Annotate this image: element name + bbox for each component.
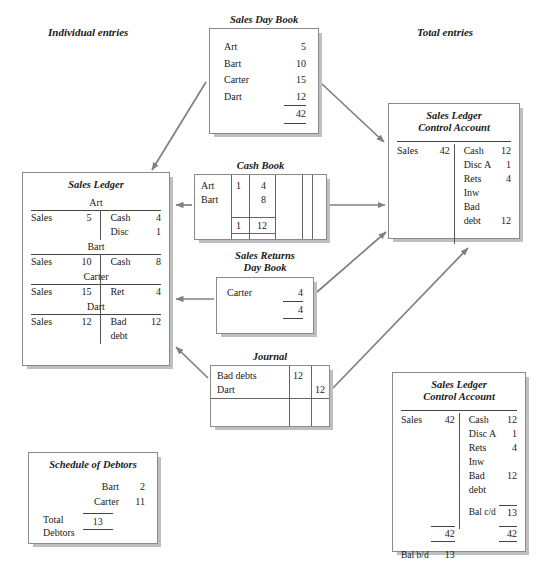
table-row: Disc 1 [23,225,169,239]
credit-name: Cash [110,255,141,269]
table-row: Sales 15 Ret 4 [23,285,169,299]
arrow-journal-to-control-top [333,248,468,388]
credit-value: 4 [493,172,511,186]
debtor-name: Bart [102,479,119,494]
credit-value: 12 [493,144,511,158]
total-debtors-row: Total Debtors 13 [43,513,145,539]
cashbook-disc-total: 1 [236,219,241,233]
table-row: Disc A 1 [389,158,519,172]
total-value: 4 [283,301,303,319]
sales-day-book-rows: Art 5 Bart 10 Carter 15 Dart 12 42 [210,29,318,124]
srdb-title-line2: Day Book [244,262,287,273]
credit-value: 1 [142,225,161,239]
sales-ledger-card: Sales Ledger Art Sales 5 Cash 4 Disc 1 B… [22,172,170,366]
entry-value: 5 [284,39,306,56]
table-row: debt 12 [389,214,519,228]
total-value: 42 [284,106,306,124]
entry-name: Art [224,39,284,56]
sales-day-book-title: Sales Day Book [209,14,319,26]
credit-value: 12 [142,315,161,329]
cashbook-cash-value: 4 [261,179,266,193]
debit-name: Sales [31,315,68,329]
table-row: Bal c/d 13 [393,505,525,520]
entry-value: 4 [283,285,303,301]
cash-book-card: Art Bart 1 4 8 1 12 [194,174,327,240]
section-label-total-entries: Total entries [417,26,473,38]
credit-name: debt [464,214,494,228]
table-row: Rets 4 [389,172,519,186]
credit-name: Rets [469,441,499,455]
balance-bd-row: Bal b/d 13 [393,548,525,562]
journal-row-name: Bad debts [217,369,257,383]
credit-name: Ret [110,285,141,299]
table-row: Rets 4 [393,441,525,455]
table-row: Carter 15 [224,72,306,89]
control-account-top-card: Sales Ledger Control Account Sales 42 Ca… [388,103,520,239]
debit-name: Sales [31,285,68,299]
sales-returns-day-book-title: Sales Returns Day Book [206,250,324,274]
table-row: Bart 10 [224,56,306,73]
journal-title: Journal [210,351,330,363]
totals-row: 42 42 [393,526,525,542]
table-row: Bad [389,200,519,214]
cashbook-cash-total: 12 [257,219,267,233]
debtor-name: Carter [94,494,119,509]
sales-ledger-title: Sales Ledger [23,173,169,195]
total-label-line1: Total [43,514,63,525]
debit-value: 10 [68,255,97,269]
debit-value: 42 [431,413,454,427]
journal-row-name: Dart [217,383,235,397]
table-row: Bart 2 [43,479,145,494]
ledger-account-bart: Bart Sales 10 Cash 8 [23,239,169,269]
arrow-sdb-to-sales-ledger [152,82,206,170]
control-account-top-title: Sales Ledger Control Account [389,104,519,138]
cashbook-row-name: Art [201,179,214,193]
cashbook-cash-value: 8 [261,193,266,207]
debtor-value: 2 [119,479,145,494]
credit-name: debt [469,483,499,497]
credit-name: Disc [110,225,141,239]
credit-value: 1 [493,158,511,172]
entry-name: Bart [224,56,284,73]
ledger-account-art: Art Sales 5 Cash 4 Disc 1 [23,195,169,239]
table-row: Carter 11 [43,494,145,509]
account-name: Bart [23,239,169,254]
srdb-title-line1: Sales Returns [235,250,295,261]
debit-name: Sales [31,211,68,225]
ledger-account-carter: Carter Sales 15 Ret 4 [23,269,169,299]
credit-value: 13 [499,505,517,520]
account-name: Art [23,195,169,210]
debit-total: 42 [431,526,454,542]
debtor-value: 11 [119,494,145,509]
sales-returns-day-book-card: Carter 4 4 [216,277,314,334]
title-line1: Sales Ledger [431,379,487,390]
account-name: Carter [23,269,169,284]
schedule-of-debtors-title: Schedule of Debtors [29,453,157,475]
debit-value: 15 [68,285,97,299]
credit-name: Rets [464,172,494,186]
arrow-journal-to-sales-ledger [176,347,208,378]
arrow-srdb-to-control-top [317,232,386,292]
ledger-account-dart: Dart Sales 12 Bad 12 debt [23,299,169,343]
debit-value: 5 [68,211,97,225]
credit-value: 8 [142,255,161,269]
entry-name: Dart [224,89,284,107]
total-row: 42 [224,106,306,124]
credit-value: 12 [499,469,517,483]
table-row: debt [393,483,525,497]
control-account-bottom-card: Sales Ledger Control Account Sales 42 Ca… [392,372,526,552]
arrow-sdb-to-control-top [322,84,384,142]
table-row: Sales 12 Bad 12 [23,315,169,329]
entry-name: Carter [227,285,283,301]
credit-name: Cash [464,144,494,158]
cashbook-row-name: Bart [201,193,218,207]
table-row: Sales 42 Cash 12 [393,413,525,427]
journal-debit-value: 12 [293,369,303,383]
credit-name: Disc A [469,427,499,441]
credit-value: 1 [499,427,517,441]
journal-credit-value: 12 [315,383,325,397]
table-row: Bad 12 [393,469,525,483]
schedule-of-debtors-card: Schedule of Debtors Bart 2 Carter 11 Tot… [28,452,158,544]
table-row: Sales 10 Cash 8 [23,255,169,269]
credit-value: 4 [142,211,161,225]
